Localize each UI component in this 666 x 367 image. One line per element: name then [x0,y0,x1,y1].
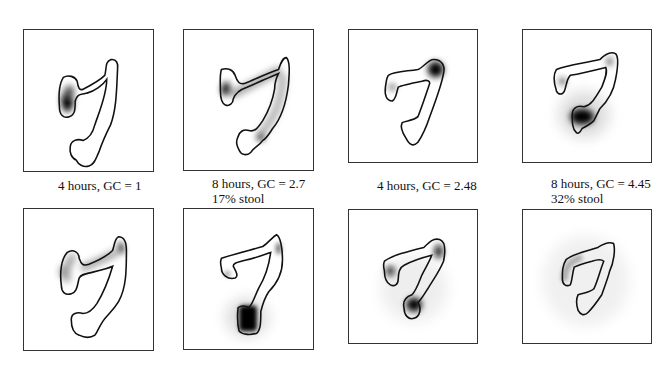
caption-line-1: 8 hours, GC = 2.7 [212,176,305,191]
colon-scan-image [523,210,651,343]
caption-line-1: 8 hours, GC = 4.45 [551,176,651,191]
colon-scan-image [24,209,153,350]
colon-scan-image [349,30,477,162]
caption-line-1: 4 hours, GC = 2.48 [377,178,477,193]
caption-line-2: 17% stool [212,191,305,206]
scan-panel-top-3 [348,29,478,163]
scan-panel-top-2 [183,29,314,171]
panel-caption: 4 hours, GC = 1 [58,178,142,193]
colon-scan-image [184,209,313,349]
scan-panel-bottom-2 [183,208,314,350]
caption-line-1: 4 hours, GC = 1 [58,178,142,193]
scan-panel-top-1 [23,29,154,172]
colon-scan-image [184,30,313,170]
colon-scan-image [523,30,651,162]
scan-panel-bottom-4 [522,209,652,344]
scan-panel-bottom-3 [348,209,478,344]
colon-scan-image [24,30,153,171]
panel-caption: 8 hours, GC = 4.45 32% stool [551,176,651,206]
colon-scan-image [349,210,477,343]
caption-line-2: 32% stool [551,191,651,206]
scan-panel-bottom-1 [23,208,154,351]
panel-caption: 4 hours, GC = 2.48 [377,178,477,193]
panel-caption: 8 hours, GC = 2.7 17% stool [212,176,305,206]
scan-panel-top-4 [522,29,652,163]
